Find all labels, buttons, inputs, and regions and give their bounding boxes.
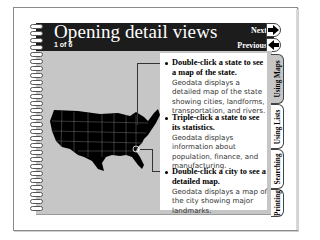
bullet xyxy=(165,171,168,174)
arrow-right-icon xyxy=(268,25,279,35)
item-2-body: Geodata displays information about popul… xyxy=(172,133,268,171)
tab-printing[interactable]: Printing xyxy=(271,189,284,217)
previous-label[interactable]: Previous xyxy=(237,41,267,50)
tab-label: Searching xyxy=(273,153,282,184)
item-1-heading: Double-click a state to see a map of the… xyxy=(172,58,268,77)
bullet xyxy=(165,62,168,65)
item-1-body: Geodata displays a detailed map of the s… xyxy=(172,78,268,116)
callout-line-1v xyxy=(137,63,138,125)
next-label[interactable]: Next xyxy=(251,26,267,35)
next-button[interactable] xyxy=(266,23,281,37)
bullet xyxy=(165,117,168,120)
tab-label: Printing xyxy=(273,190,282,216)
us-map-shape xyxy=(50,109,160,171)
item-2-heading: Triple-click a state to see its statisti… xyxy=(172,113,268,132)
page-title: Opening detail views xyxy=(54,22,217,42)
previous-button[interactable] xyxy=(266,38,281,52)
tab-using-maps[interactable]: Using Maps xyxy=(271,54,284,104)
page-shadow xyxy=(296,9,298,230)
spiral-binding xyxy=(30,22,44,214)
arrow-left-icon xyxy=(268,40,279,50)
callout-line-3v xyxy=(152,149,153,171)
tab-label: Using Lists xyxy=(273,109,282,144)
tab-label: Using Maps xyxy=(273,60,282,97)
page-counter: 1 of 6 xyxy=(54,41,72,49)
item-3-body: Geodata displays a map of the city showi… xyxy=(172,187,268,215)
item-3-heading: Double-click a city to see a detailed ma… xyxy=(172,167,268,186)
tab-searching[interactable]: Searching xyxy=(271,149,284,189)
us-map-illustration xyxy=(48,107,163,173)
tab-using-lists[interactable]: Using Lists xyxy=(271,104,284,149)
